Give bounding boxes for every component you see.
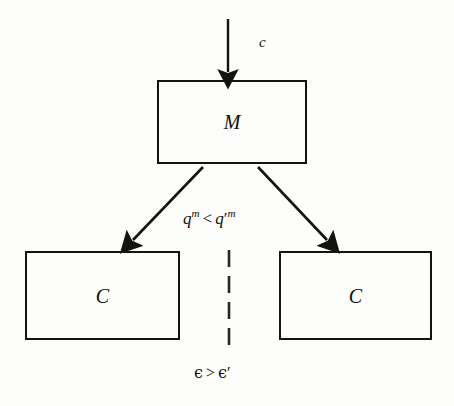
markup-right-symbol: ϵ	[218, 363, 227, 382]
quantity-left-superscript: m	[192, 207, 200, 219]
markup-comparison-label: ϵ>ϵ′	[194, 365, 230, 381]
node-competitor-left: C	[25, 251, 180, 340]
input-cost-label: c	[259, 35, 266, 50]
split-left-arrow	[133, 167, 203, 240]
node-competitor-left-label: C	[96, 286, 109, 306]
markup-right-prime: ′	[227, 364, 231, 381]
diagram-canvas: M C C c qm<q′m ϵ>ϵ′	[0, 0, 454, 406]
markup-relation-operator: >	[203, 364, 218, 381]
markup-left-symbol: ϵ	[194, 363, 203, 382]
input-cost-symbol: c	[259, 34, 266, 50]
quantity-relation-operator: <	[200, 209, 216, 228]
quantity-right-superscript: m	[227, 207, 235, 219]
diagram-connectors-layer	[0, 0, 454, 406]
quantity-comparison-label: qm<q′m	[183, 208, 236, 227]
node-competitor-right: C	[279, 251, 432, 340]
quantity-left-base: q	[183, 209, 192, 228]
node-monopoly: M	[157, 80, 307, 164]
quantity-right-base: q	[215, 209, 224, 228]
node-competitor-right-label: C	[349, 286, 362, 306]
node-monopoly-label: M	[224, 112, 241, 132]
split-right-arrow	[258, 167, 327, 240]
